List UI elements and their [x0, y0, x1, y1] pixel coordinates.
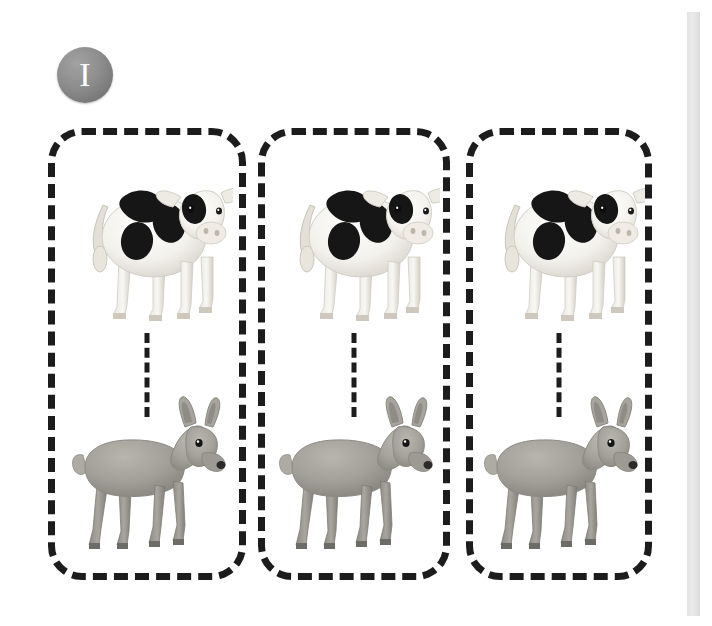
question-number-badge: I	[57, 47, 113, 103]
page-edge-bar	[687, 12, 700, 616]
cow-figure	[268, 149, 440, 327]
deer-figure	[63, 393, 231, 559]
cow-figure	[473, 149, 645, 327]
deer-figure	[270, 393, 438, 559]
group-box-3[interactable]	[466, 128, 652, 580]
deer-figure	[475, 393, 643, 559]
group-box-1[interactable]	[48, 128, 246, 580]
animal-pair-2	[265, 135, 443, 573]
group-box-2[interactable]	[258, 128, 450, 580]
worksheet-canvas: I	[0, 0, 712, 626]
question-number-label: I	[79, 58, 90, 92]
animal-pair-3	[473, 135, 645, 573]
cow-figure	[61, 149, 233, 327]
animal-pair-1	[55, 135, 239, 573]
